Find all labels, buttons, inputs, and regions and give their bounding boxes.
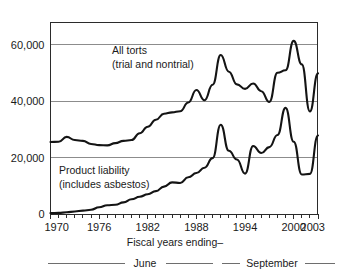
x-tick-label-1970: 1970	[45, 221, 69, 233]
bracket-label-june: June	[134, 257, 157, 269]
tort-filings-line-chart: 020,00040,00060,000 19701976198219881994…	[0, 0, 350, 274]
y-tick-label-60000: 60,000	[11, 39, 45, 51]
x-axis-tick-labels: 1970197619821988199420002003	[45, 221, 326, 233]
product-liability-label-line1: Product liability	[59, 164, 130, 176]
chart-figure: 020,00040,00060,000 19701976198219881994…	[0, 0, 350, 274]
all-torts-label-line1: All torts	[112, 44, 147, 56]
x-tick-label-1988: 1988	[184, 221, 208, 233]
x-tick-label-1976: 1976	[87, 221, 111, 233]
x-tick-label-1994: 1994	[233, 221, 257, 233]
y-tick-label-0: 0	[38, 208, 44, 220]
x-tick-label-2003: 2003	[301, 221, 325, 233]
bracket-label-september: September	[246, 257, 298, 269]
y-tick-label-40000: 40,000	[11, 95, 45, 107]
product-liability-label-line2: (includes asbestos)	[59, 178, 149, 190]
y-tick-label-20000: 20,000	[11, 152, 45, 164]
all-torts-label-line2: (trial and nontrial)	[112, 58, 194, 70]
x-tick-label-1982: 1982	[136, 221, 160, 233]
axis-caption: Fiscal years ending–	[127, 236, 223, 248]
